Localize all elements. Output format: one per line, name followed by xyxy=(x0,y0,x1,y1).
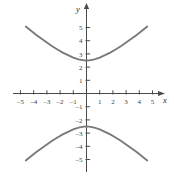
x-tick-label: 1 xyxy=(98,98,102,106)
x-tick-label: 4 xyxy=(138,98,142,106)
y-axis-arrow-icon xyxy=(84,3,89,9)
y-tick-label: –4 xyxy=(75,143,84,151)
y-tick-label: 2 xyxy=(79,64,83,72)
x-tick-label: –3 xyxy=(42,98,51,106)
y-tick-label: 5 xyxy=(79,24,83,32)
x-tick-label: –2 xyxy=(56,98,65,106)
y-tick-label: 3 xyxy=(79,51,83,59)
tick-labels-group: –5–4–3–2–11234554321–1–2–3–4–5 xyxy=(16,24,155,164)
x-tick-label: 2 xyxy=(111,98,115,106)
hyperbola-figure: –5–4–3–2–11234554321–1–2–3–4–5 x y xyxy=(0,0,174,178)
y-tick-label: –3 xyxy=(75,130,84,138)
y-tick-label: –5 xyxy=(75,156,84,164)
x-tick-label: –4 xyxy=(29,98,38,106)
x-tick-label: 3 xyxy=(124,98,128,106)
y-axis-label: y xyxy=(75,4,80,14)
y-tick-label: 1 xyxy=(79,77,83,85)
x-tick-label: –5 xyxy=(16,98,25,106)
y-tick-label: –1 xyxy=(75,103,84,111)
y-tick-label: 4 xyxy=(79,37,83,45)
plot-canvas: –5–4–3–2–11234554321–1–2–3–4–5 x y xyxy=(0,0,174,178)
y-tick-label: –2 xyxy=(75,117,84,125)
x-axis-label: x xyxy=(162,95,167,105)
x-tick-label: 5 xyxy=(151,98,155,106)
